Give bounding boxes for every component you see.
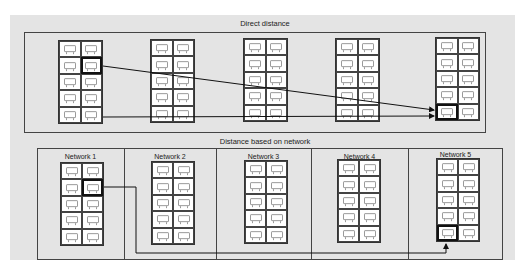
- server-slot: [437, 175, 458, 191]
- server-slot: [358, 105, 380, 121]
- server-icon: [250, 231, 262, 238]
- server-slot: [458, 159, 479, 175]
- network-divider: [311, 148, 312, 260]
- server-slot: [244, 88, 266, 104]
- server-icon: [270, 43, 282, 50]
- server-slot: [458, 192, 479, 208]
- server-icon: [64, 62, 76, 69]
- server-slot: [82, 229, 103, 245]
- server-icon: [442, 196, 454, 203]
- server-slot: [458, 38, 480, 54]
- server-icon: [271, 198, 283, 205]
- server-icon: [64, 78, 76, 85]
- server-slot: [152, 178, 173, 194]
- highlighted-server-slot: [81, 57, 103, 73]
- server-slot: [245, 227, 266, 243]
- network-5-rack: [436, 158, 480, 242]
- server-icon: [462, 75, 474, 82]
- server-icon: [463, 180, 475, 187]
- server-icon: [442, 180, 454, 187]
- server-icon: [463, 163, 475, 170]
- network-1-label: Network 1: [37, 153, 124, 160]
- server-icon: [442, 213, 454, 220]
- server-slot: [436, 87, 458, 103]
- server-icon: [364, 164, 376, 171]
- server-slot: [266, 88, 288, 104]
- server-icon: [66, 200, 78, 207]
- server-icon: [441, 92, 453, 99]
- top-rack-1: [58, 40, 103, 124]
- server-slot: [338, 209, 359, 225]
- server-icon: [66, 233, 78, 240]
- server-icon: [463, 229, 475, 236]
- server-icon: [270, 60, 282, 67]
- server-icon: [249, 76, 261, 83]
- server-icon: [157, 166, 169, 173]
- server-icon: [271, 182, 283, 189]
- server-icon: [362, 43, 374, 50]
- server-slot: [336, 72, 358, 88]
- server-slot: [151, 56, 173, 72]
- server-icon: [271, 215, 283, 222]
- server-slot: [266, 72, 288, 88]
- server-icon: [249, 43, 261, 50]
- server-slot: [152, 195, 173, 211]
- server-icon: [85, 45, 97, 52]
- highlighted-server-slot: [436, 104, 458, 120]
- server-slot: [358, 55, 380, 71]
- network-3-label: Network 3: [216, 153, 311, 160]
- server-icon: [87, 233, 99, 240]
- server-icon: [364, 214, 376, 221]
- server-icon: [178, 166, 190, 173]
- server-icon: [85, 78, 97, 85]
- server-slot: [82, 163, 103, 179]
- server-slot: [151, 106, 173, 122]
- server-icon: [463, 196, 475, 203]
- network-divider: [216, 148, 217, 260]
- server-slot: [173, 89, 195, 105]
- network-4-rack: [337, 159, 381, 243]
- server-slot: [244, 105, 266, 121]
- server-icon: [157, 199, 169, 206]
- top-rack-5: [435, 37, 480, 121]
- server-slot: [245, 177, 266, 193]
- server-slot: [173, 228, 194, 244]
- server-slot: [245, 194, 266, 210]
- server-icon: [66, 217, 78, 224]
- server-slot: [458, 225, 479, 241]
- network-divider: [124, 148, 125, 260]
- server-icon: [364, 230, 376, 237]
- server-slot: [244, 55, 266, 71]
- server-icon: [462, 59, 474, 66]
- server-icon: [156, 110, 168, 117]
- server-icon: [362, 93, 374, 100]
- server-icon: [341, 60, 353, 67]
- network-1-rack: [60, 162, 104, 246]
- server-slot: [82, 212, 103, 228]
- network-divider: [408, 148, 409, 260]
- server-icon: [364, 197, 376, 204]
- server-icon: [343, 197, 355, 204]
- server-icon: [178, 216, 190, 223]
- server-slot: [244, 72, 266, 88]
- server-slot: [458, 54, 480, 70]
- server-slot: [437, 192, 458, 208]
- server-icon: [87, 200, 99, 207]
- server-icon: [343, 214, 355, 221]
- network-5-label: Network 5: [408, 151, 503, 158]
- server-slot: [245, 210, 266, 226]
- server-icon: [463, 213, 475, 220]
- server-slot: [358, 88, 380, 104]
- server-slot: [336, 55, 358, 71]
- server-slot: [266, 39, 288, 55]
- server-slot: [81, 90, 103, 106]
- server-slot: [458, 71, 480, 87]
- server-icon: [271, 231, 283, 238]
- server-icon: [341, 43, 353, 50]
- server-slot: [359, 176, 380, 192]
- server-slot: [173, 178, 194, 194]
- server-icon: [441, 42, 453, 49]
- server-icon: [250, 182, 262, 189]
- server-slot: [266, 161, 287, 177]
- server-slot: [436, 71, 458, 87]
